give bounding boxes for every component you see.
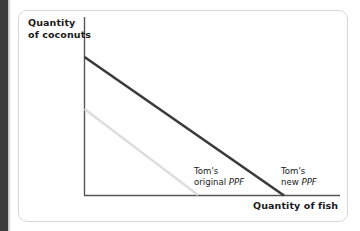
new-ppf-label-line1: Tom's <box>281 166 305 176</box>
y-axis-title: Quantity of coconuts <box>28 17 91 41</box>
original-ppf-label-line2-prefix: original <box>194 177 229 187</box>
new-ppf-line <box>85 57 285 196</box>
original-ppf-line <box>85 109 199 195</box>
new-ppf-label: Tom's new PPF <box>281 166 317 188</box>
original-ppf-label: Tom's original PPF <box>194 166 244 188</box>
x-axis-title: Quantity of fish <box>253 200 338 212</box>
figure-root: Quantity of coconuts Quantity of fish To… <box>0 0 360 231</box>
y-axis-title-line2: of coconuts <box>28 29 91 40</box>
original-ppf-label-line1: Tom's <box>194 166 218 176</box>
y-axis-title-line1: Quantity <box>28 17 75 28</box>
original-ppf-label-line2-italic: PPF <box>229 177 244 187</box>
new-ppf-label-line2-prefix: new <box>281 177 302 187</box>
new-ppf-label-line2-italic: PPF <box>302 177 317 187</box>
plot-area: Quantity of coconuts Quantity of fish To… <box>0 0 360 231</box>
